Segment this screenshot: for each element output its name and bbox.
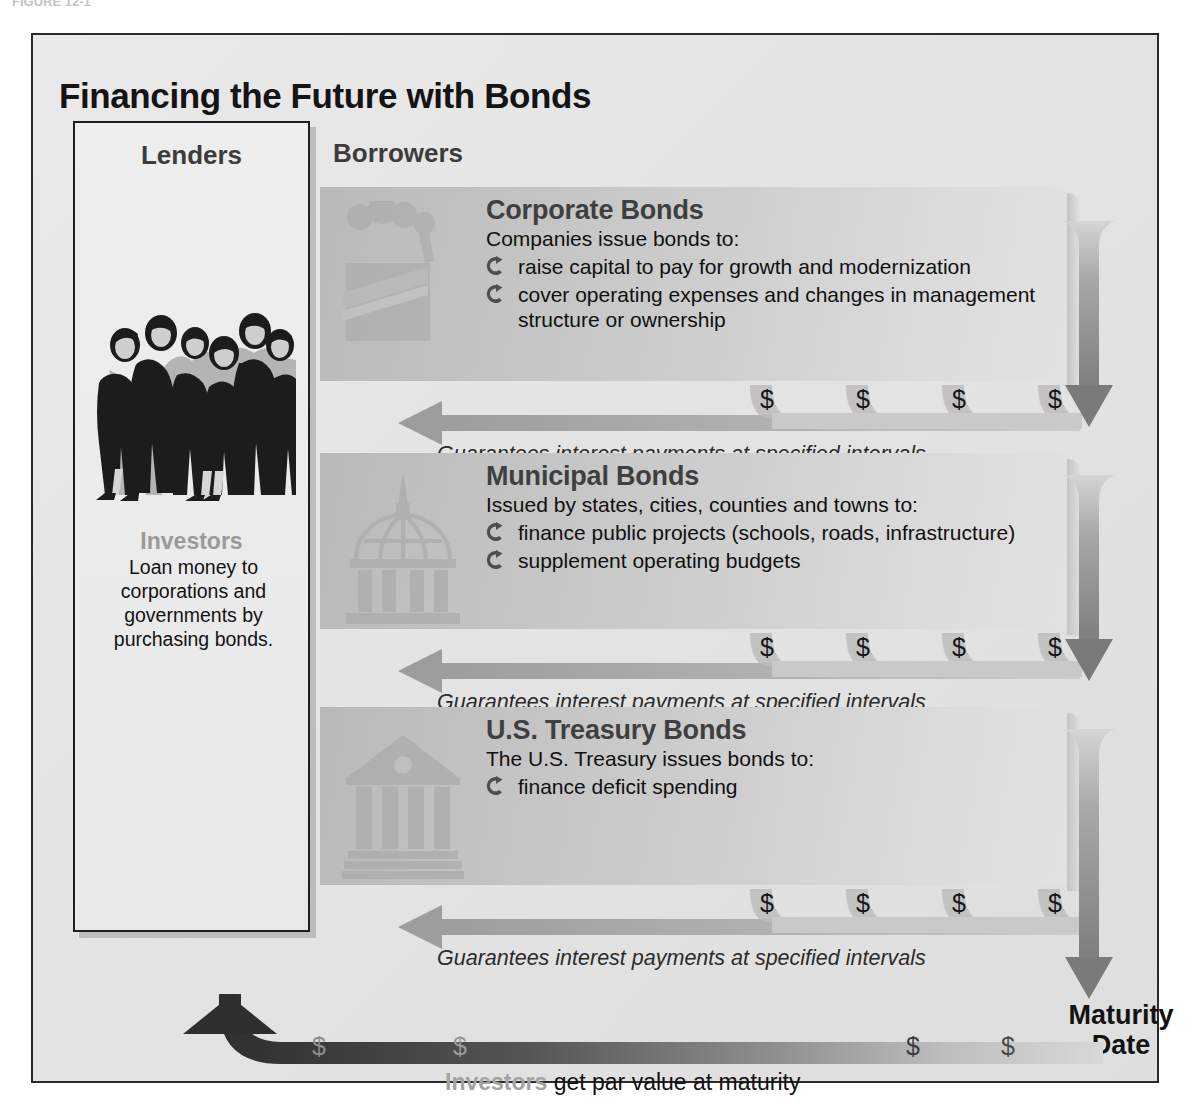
page-title: Financing the Future with Bonds [59,76,591,116]
list-item: cover operating expenses and changes in … [486,282,1058,332]
list-item-text: supplement operating budgets [518,549,801,572]
down-arrow-icon [1055,729,1121,1009]
list-item-text: finance public projects (schools, roads,… [518,521,1015,544]
par-value-caption: Investors get par value at maturity [445,1069,800,1096]
factory-icon [342,201,464,361]
dollar-symbol: $ [952,385,966,414]
down-arrow-icon [1055,221,1121,437]
circular-arrow-bullet-icon [486,550,506,570]
treasury-building-icon [342,721,464,881]
list-item: finance public projects (schools, roads,… [486,520,1058,545]
capitol-dome-icon [342,467,464,627]
group-of-investors-icon [91,301,296,506]
dollar-symbol: $ [952,633,966,662]
par-value-caption-text: get par value at maturity [547,1069,800,1095]
section-title: Municipal Bonds [486,461,1058,492]
dollar-symbol: $ [906,1032,920,1061]
section-panel-corporate: Corporate Bonds Companies issue bonds to… [320,187,1072,381]
section-panel-treasury: U.S. Treasury Bonds The U.S. Treasury is… [320,707,1072,885]
bullet-list: finance deficit spending [486,774,1058,799]
dollar-symbol: $ [760,633,774,662]
list-item: finance deficit spending [486,774,1058,799]
panel-body-treasury: U.S. Treasury Bonds The U.S. Treasury is… [486,715,1058,799]
dollar-symbol: $ [856,633,870,662]
interest-flow-treasury: $ $ $ $ Guarantees interest payments at … [320,889,1110,981]
interest-caption: Guarantees interest payments at specifie… [437,946,926,971]
dollar-symbol: $ [856,889,870,918]
down-arrow-icon [1055,475,1121,691]
circular-arrow-bullet-icon [486,522,506,542]
dollar-symbol: $ [760,889,774,918]
figure-canvas: FIGURE 12-1 Financing the Future with Bo… [0,0,1191,1114]
section-title: Corporate Bonds [486,195,1058,226]
circular-arrow-bullet-icon [486,284,506,304]
investors-label: Investors [75,528,308,555]
list-item-text: raise capital to pay for growth and mode… [518,255,971,278]
figure-frame: Financing the Future with Bonds Lenders [31,33,1159,1083]
section-subtitle: Companies issue bonds to: [486,227,1058,251]
dollar-symbol: $ [952,889,966,918]
section-panel-municipal: Municipal Bonds Issued by states, cities… [320,453,1072,629]
section-title: U.S. Treasury Bonds [486,715,1058,746]
section-subtitle: The U.S. Treasury issues bonds to: [486,747,1058,771]
dollar-symbol: $ [760,385,774,414]
figure-number-fragment: FIGURE 12-1 [12,0,222,8]
borrowers-heading: Borrowers [333,138,463,169]
panel-body-corporate: Corporate Bonds Companies issue bonds to… [486,195,1058,332]
lenders-panel: Lenders [73,121,310,932]
bullet-list: finance public projects (schools, roads,… [486,520,1058,573]
dollar-symbol: $ [312,1032,326,1061]
list-item-text: finance deficit spending [518,775,738,798]
dollar-symbol: $ [453,1032,467,1061]
circular-arrow-bullet-icon [486,256,506,276]
investors-description: Loan money to corporations and governmen… [89,555,298,651]
circular-arrow-bullet-icon [486,776,506,796]
lenders-heading: Lenders [75,140,308,171]
par-value-strong-label: Investors [445,1069,547,1095]
section-subtitle: Issued by states, cities, counties and t… [486,493,1058,517]
list-item: supplement operating budgets [486,548,1058,573]
list-item: raise capital to pay for growth and mode… [486,254,1058,279]
panel-body-municipal: Municipal Bonds Issued by states, cities… [486,461,1058,573]
dollar-symbol: $ [1001,1032,1015,1061]
list-item-text: cover operating expenses and changes in … [518,283,1035,331]
dollar-symbol: $ [856,385,870,414]
bullet-list: raise capital to pay for growth and mode… [486,254,1058,332]
